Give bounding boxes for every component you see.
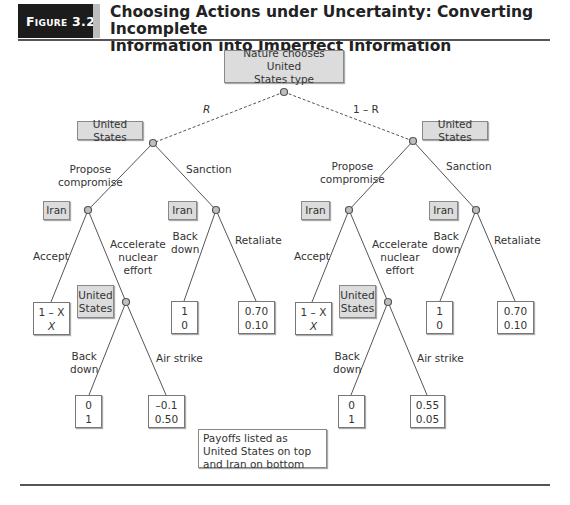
action-propose-right: Propose compromise	[320, 160, 385, 186]
propose-line-1: Propose	[320, 160, 385, 173]
nature-label-line-1: Nature chooses United	[225, 47, 343, 73]
action-retaliate-right: Retaliate	[494, 234, 541, 247]
action-us-backdown-right: Back down	[333, 350, 361, 376]
back-line-2: down	[432, 243, 460, 256]
payoff-left-us-backdown: 0 1	[75, 395, 102, 428]
action-us-backdown-left: Back down	[70, 350, 98, 376]
nature-node	[281, 89, 288, 96]
payoff-us: 1 – X	[301, 305, 327, 319]
us-line-1: United	[78, 289, 113, 302]
edge-nature-right	[284, 92, 413, 141]
action-retaliate-left: Retaliate	[235, 234, 282, 247]
nature-label-line-2: States type	[254, 73, 314, 86]
accelerate-line-1: Accelerate	[372, 238, 428, 251]
us-node-left-accel	[123, 299, 130, 306]
iran-label-right-sanction: Iran	[429, 201, 458, 220]
accelerate-line-1: Accelerate	[110, 238, 166, 251]
us-label-left: United States	[77, 121, 143, 140]
accelerate-line-2: nuclear	[372, 251, 428, 264]
payoff-right-accept: 1 – X X	[295, 302, 332, 335]
iran-node-right-propose	[346, 207, 353, 214]
payoff-left-accept: 1 – X X	[33, 302, 70, 335]
payoff-us: –0.1	[156, 398, 178, 412]
payoff-iran: 0.10	[245, 318, 268, 332]
propose-line-1: Propose	[58, 163, 123, 176]
payoff-iran: 0.50	[155, 412, 178, 426]
back-line-1: Back	[70, 350, 98, 363]
back-line-1: Back	[432, 230, 460, 243]
action-airstrike-right: Air strike	[417, 352, 464, 365]
accelerate-line-2: nuclear	[110, 251, 166, 264]
action-propose-left: Propose compromise	[58, 163, 123, 189]
edge-retaliate-right	[476, 210, 515, 301]
payoff-iran: X	[310, 319, 317, 333]
action-airstrike-left: Air strike	[156, 352, 203, 365]
us-label-right: United States	[422, 121, 488, 140]
action-iran-backdown-left: Back down	[171, 230, 199, 256]
action-accept-right: Accept	[294, 250, 330, 263]
action-accelerate-left: Accelerate nuclear effort	[110, 238, 166, 277]
accelerate-line-3: effort	[372, 264, 428, 277]
payoff-left-iran-backdown: 1 0	[171, 301, 198, 334]
nature-label-box: Nature chooses United States type	[224, 50, 344, 83]
edge-sanction-right	[413, 141, 476, 210]
payoff-us: 0.70	[504, 304, 527, 318]
back-line-2: down	[333, 363, 361, 376]
us-label-right-accel: United States	[339, 285, 376, 318]
payoff-us: 1	[181, 304, 188, 318]
payoff-note: Payoffs listed as United States on top a…	[198, 429, 327, 468]
action-sanction-left: Sanction	[186, 163, 232, 176]
prob-1-minus-r-label: 1 – R	[353, 103, 379, 116]
us-node-right-accel	[385, 299, 392, 306]
iran-node-right-sanction	[473, 207, 480, 214]
iran-label-right-propose: Iran	[301, 201, 330, 220]
payoff-iran: 1	[85, 412, 92, 426]
payoff-iran: 1	[348, 412, 355, 426]
payoff-us: 1	[436, 304, 443, 318]
back-line-2: down	[171, 243, 199, 256]
payoff-left-retaliate: 0.70 0.10	[238, 301, 275, 334]
back-line-1: Back	[333, 350, 361, 363]
edge-airstrike-left	[126, 302, 166, 395]
payoff-us: 0.70	[245, 304, 268, 318]
prob-1-minus-r-text: 1 – R	[353, 103, 379, 115]
payoff-iran: X	[48, 319, 55, 333]
iran-node-left-sanction	[213, 207, 220, 214]
us-node-left	[150, 140, 157, 147]
us-label-left-accel: United States	[77, 285, 114, 318]
edge-sanction-left	[153, 143, 216, 210]
payoff-right-airstrike: 0.55 0.05	[410, 395, 445, 428]
us-line-2: States	[79, 302, 112, 315]
edge-retaliate-left	[216, 210, 256, 301]
action-accelerate-right: Accelerate nuclear effort	[372, 238, 428, 277]
action-iran-backdown-right: Back down	[432, 230, 460, 256]
us-line-1: United	[340, 289, 375, 302]
payoff-us: 0.55	[416, 398, 439, 412]
iran-label-left-propose: Iran	[43, 201, 70, 220]
edge-nature-left	[153, 92, 284, 143]
action-sanction-right: Sanction	[446, 160, 492, 173]
accelerate-line-3: effort	[110, 264, 166, 277]
payoff-iran: 0.10	[504, 318, 527, 332]
iran-node-left-propose	[85, 207, 92, 214]
propose-line-2: compromise	[58, 176, 123, 189]
us-node-right	[410, 138, 417, 145]
payoff-left-airstrike: –0.1 0.50	[148, 395, 185, 428]
propose-line-2: compromise	[320, 173, 385, 186]
payoff-right-iran-backdown: 1 0	[426, 301, 453, 334]
payoff-right-us-backdown: 0 1	[338, 395, 365, 428]
payoff-iran: 0	[181, 318, 188, 332]
payoff-us: 1 – X	[39, 305, 65, 319]
payoff-right-retaliate: 0.70 0.10	[497, 301, 534, 334]
payoff-us: 0	[348, 398, 355, 412]
payoff-us: 0	[85, 398, 92, 412]
payoff-iran: 0.05	[416, 412, 439, 426]
edge-airstrike-right	[388, 302, 427, 395]
prob-r-label: R	[203, 103, 210, 116]
back-line-2: down	[70, 363, 98, 376]
bottom-divider	[20, 484, 550, 486]
us-line-2: States	[341, 302, 374, 315]
iran-label-left-sanction: Iran	[168, 201, 197, 220]
back-line-1: Back	[171, 230, 199, 243]
payoff-iran: 0	[436, 318, 443, 332]
